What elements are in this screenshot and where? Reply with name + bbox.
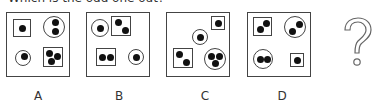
dot — [115, 19, 122, 26]
dot — [264, 56, 271, 63]
square-shape — [253, 17, 272, 36]
dot — [19, 25, 26, 32]
dot — [257, 56, 264, 63]
square-shape — [211, 16, 225, 30]
dot — [257, 26, 264, 33]
square-shape — [111, 16, 131, 36]
square-shape — [290, 53, 304, 67]
dot — [294, 57, 301, 64]
circle-shape — [253, 49, 273, 69]
circle-shape — [128, 49, 144, 65]
dot — [296, 21, 303, 28]
circle-shape — [192, 29, 208, 45]
circle-shape — [91, 19, 109, 37]
option-a-panel[interactable] — [6, 12, 70, 77]
dot — [52, 19, 59, 26]
option-b-label: B — [109, 89, 129, 103]
question-mark-icon — [340, 16, 376, 72]
option-c-panel[interactable] — [166, 12, 230, 77]
dot — [197, 34, 204, 41]
square-shape — [96, 48, 116, 66]
circle-shape — [284, 16, 306, 38]
option-b-panel[interactable] — [86, 12, 150, 77]
dot — [107, 54, 114, 61]
dot — [21, 53, 28, 60]
dot — [289, 28, 296, 35]
dot — [48, 58, 55, 65]
dot — [122, 27, 129, 34]
dot — [46, 50, 53, 57]
square-shape — [13, 19, 31, 37]
option-a-label: A — [28, 89, 48, 103]
dot — [183, 59, 190, 66]
dot — [133, 54, 140, 61]
dot — [216, 53, 223, 60]
dot — [215, 20, 222, 27]
option-c-label: C — [195, 89, 215, 103]
dot — [54, 53, 61, 60]
dot — [263, 20, 270, 27]
circle-shape — [43, 16, 65, 38]
dot — [99, 54, 106, 61]
option-d-panel[interactable] — [247, 12, 311, 77]
circle-shape — [204, 48, 226, 70]
dot — [97, 25, 104, 32]
option-d-label: D — [272, 89, 292, 103]
question-text: Which is the odd one out? — [8, 0, 164, 5]
square-shape — [43, 47, 63, 67]
square-shape — [173, 48, 193, 68]
circle-shape — [15, 50, 31, 66]
dot — [176, 51, 183, 58]
dot — [208, 53, 215, 60]
dot — [212, 60, 219, 67]
dot — [52, 28, 59, 35]
